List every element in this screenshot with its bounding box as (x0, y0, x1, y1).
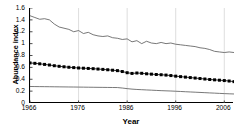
data-marker (82, 67, 85, 70)
data-marker (48, 64, 51, 67)
data-marker (30, 61, 32, 64)
data-marker (87, 67, 90, 70)
x-tick-label: 2006 (203, 105, 237, 112)
data-marker (72, 66, 75, 69)
data-marker (135, 72, 138, 75)
data-marker (97, 68, 100, 71)
data-marker (218, 79, 221, 82)
data-marker (208, 78, 211, 81)
data-marker (116, 69, 119, 72)
y-tick-label: 1.6 (0, 5, 25, 12)
data-marker (131, 72, 134, 75)
data-marker (184, 76, 187, 79)
plot-area (29, 8, 233, 103)
data-marker (126, 71, 129, 74)
series-line-upper-confidence-limit (30, 16, 234, 53)
data-marker (179, 75, 182, 78)
x-tick-label: 1996 (155, 105, 195, 112)
y-tick-label: 0.6 (0, 64, 25, 71)
data-marker (33, 62, 36, 65)
y-tick-label: 0.2 (0, 88, 25, 95)
data-marker (92, 67, 95, 70)
data-marker (67, 66, 70, 69)
series-line-lower-confidence-limit (30, 86, 234, 93)
data-marker (111, 69, 114, 72)
data-marker (233, 80, 235, 83)
data-marker (38, 62, 41, 65)
data-marker (58, 65, 61, 68)
data-marker (101, 68, 104, 71)
y-tick-label: 1.2 (0, 28, 25, 35)
data-marker (150, 73, 153, 76)
data-marker (160, 73, 163, 76)
data-marker (165, 74, 168, 77)
chart-svg (30, 8, 234, 103)
data-marker (169, 74, 172, 77)
data-marker (203, 78, 206, 81)
data-marker (199, 77, 202, 80)
abundance-index-chart: Abundance index 00.20.40.60.811.21.41.6 … (0, 0, 237, 129)
y-tick-label: 1 (0, 40, 25, 47)
data-marker (223, 79, 226, 82)
data-marker (189, 76, 192, 79)
data-marker (53, 64, 56, 67)
data-marker (213, 78, 216, 81)
data-marker (140, 72, 143, 75)
y-tick-label: 1.4 (0, 17, 25, 24)
data-marker (77, 66, 80, 69)
data-marker (194, 77, 197, 80)
x-axis-title: Year (29, 117, 233, 126)
data-marker (155, 73, 158, 76)
data-marker (63, 65, 66, 68)
data-marker (145, 72, 148, 75)
y-tick-label: 0.4 (0, 76, 25, 83)
data-marker (121, 70, 124, 73)
data-marker (174, 75, 177, 78)
x-tick-label: 1986 (106, 105, 146, 112)
data-marker (43, 63, 46, 66)
data-marker (228, 80, 231, 83)
x-tick-label: 1976 (58, 105, 98, 112)
data-marker (106, 68, 109, 71)
x-tick-label: 1966 (9, 105, 49, 112)
y-tick-label: 0.8 (0, 52, 25, 59)
